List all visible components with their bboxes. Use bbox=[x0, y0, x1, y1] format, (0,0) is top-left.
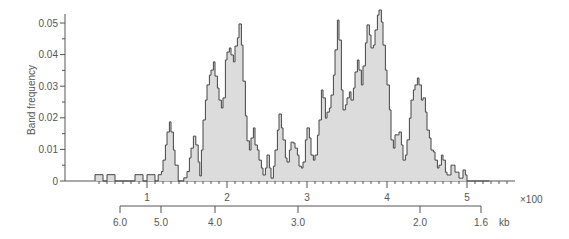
kb-tick-label: 2.0 bbox=[413, 217, 427, 228]
kb-tick-label: 1.6 bbox=[474, 217, 488, 228]
x-tick-label: 4 bbox=[384, 192, 390, 203]
x-tick-label: 3 bbox=[304, 192, 310, 203]
y-tick-label: 0.05 bbox=[39, 18, 59, 29]
kb-tick-label: 6.0 bbox=[113, 217, 127, 228]
kb-ticks: 6.05.04.03.02.01.6 bbox=[113, 206, 488, 228]
y-ticks: 00.010.020.030.040.05 bbox=[39, 18, 65, 187]
histogram-area bbox=[95, 10, 489, 181]
kb-tick-label: 3.0 bbox=[291, 217, 305, 228]
x-ticks: 12345 bbox=[99, 181, 507, 203]
kb-unit-label: kb bbox=[499, 217, 510, 228]
kb-tick-label: 5.0 bbox=[154, 217, 168, 228]
x-tick-label: 1 bbox=[144, 192, 150, 203]
y-tick-label: 0.01 bbox=[39, 144, 59, 155]
y-tick-label: 0.02 bbox=[39, 112, 59, 123]
x-tick-label: 5 bbox=[464, 192, 470, 203]
band-frequency-histogram: 00.010.020.030.040.05 Band frequency 123… bbox=[0, 0, 569, 239]
x-unit-label: ×100 bbox=[520, 194, 543, 205]
y-axis-title: Band frequency bbox=[26, 65, 37, 135]
y-tick-label: 0 bbox=[52, 176, 58, 187]
y-tick-label: 0.03 bbox=[39, 81, 59, 92]
histogram-bars bbox=[95, 10, 489, 181]
kb-tick-label: 4.0 bbox=[208, 217, 222, 228]
y-tick-label: 0.04 bbox=[39, 49, 59, 60]
x-tick-label: 2 bbox=[224, 192, 230, 203]
